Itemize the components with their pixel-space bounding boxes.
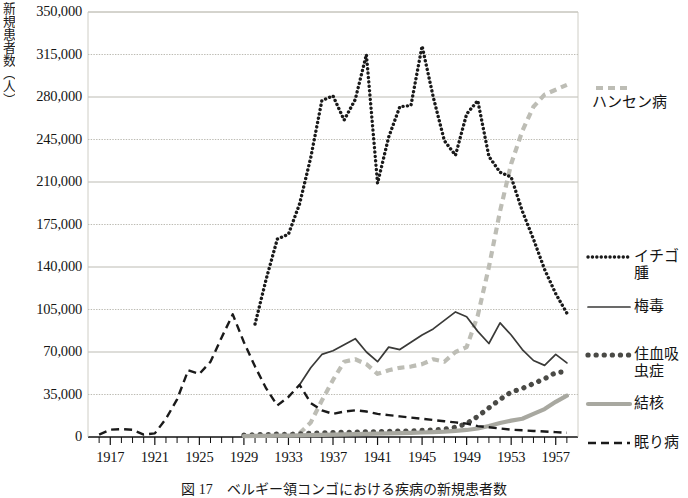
legend-label-syphilis: 梅毒: [634, 298, 664, 315]
legend-label-schistosomiasis: 住血吸 虫症: [634, 346, 679, 380]
y-tick-label: 140,000: [14, 258, 82, 275]
y-tick-label: 245,000: [14, 131, 82, 148]
x-tick-label: 1937: [308, 449, 358, 466]
x-tick-label: 1933: [263, 449, 313, 466]
legend-label-sleeping_sickness: 眠り病: [634, 434, 679, 451]
figure-container: 新規患者数（人） 035,00070,000105,000140,000175,…: [0, 0, 688, 498]
x-tick-label: 1925: [174, 449, 224, 466]
series-line-yaws: [255, 46, 567, 324]
x-tick-label: 1921: [130, 449, 180, 466]
data-series-layer: [99, 46, 567, 436]
legend-marker-layer: [588, 88, 630, 443]
legend-label-tuberculosis: 結核: [634, 395, 664, 412]
x-tick-label: 1953: [486, 449, 536, 466]
series-line-hansen: [300, 85, 567, 434]
legend-label-hansen: ハンセン病: [592, 94, 667, 111]
gridlines-group: [88, 12, 578, 395]
chart-canvas: [0, 0, 688, 498]
series-line-sleeping_sickness: [99, 314, 567, 434]
y-tick-label: 315,000: [14, 46, 82, 63]
x-tick-label: 1949: [442, 449, 492, 466]
y-tick-label: 35,000: [14, 386, 82, 403]
x-tick-marks: [99, 437, 567, 445]
y-tick-label: 210,000: [14, 173, 82, 190]
figure-caption: 図 17 ベルギー領コンゴにおける疾病の新規患者数: [0, 478, 688, 498]
x-tick-label: 1945: [397, 449, 447, 466]
x-tick-label: 1957: [531, 449, 581, 466]
legend-label-yaws: イチゴ腫: [634, 248, 688, 282]
y-tick-label: 105,000: [14, 301, 82, 318]
x-tick-label: 1929: [219, 449, 269, 466]
series-line-schistosomiasis: [244, 371, 567, 435]
x-tick-label: 1917: [85, 449, 135, 466]
series-line-syphilis: [300, 312, 567, 385]
y-tick-label: 280,000: [14, 88, 82, 105]
y-tick-label: 175,000: [14, 216, 82, 233]
x-tick-label: 1941: [353, 449, 403, 466]
y-tick-label: 350,000: [14, 3, 82, 20]
y-tick-label: 0: [14, 428, 82, 445]
y-tick-label: 70,000: [14, 343, 82, 360]
